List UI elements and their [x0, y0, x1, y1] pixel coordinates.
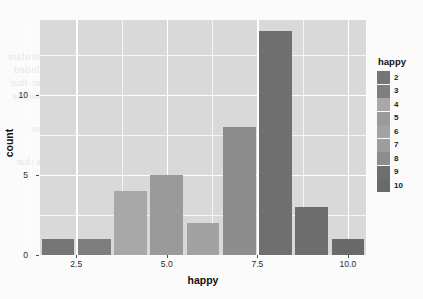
- legend-item-label: 9: [394, 168, 398, 176]
- bar: [332, 239, 365, 255]
- x-axis-tick-mark: [167, 255, 168, 258]
- legend-item-label: 8: [394, 155, 398, 163]
- bar: [223, 127, 256, 255]
- legend-item-label: 2: [394, 74, 398, 82]
- y-axis-title: count: [3, 113, 15, 173]
- legend-key-swatch: [377, 98, 390, 111]
- legend-title: happy: [378, 56, 406, 67]
- legend-items: 2345678910: [377, 71, 406, 193]
- legend-item: 8: [377, 152, 406, 166]
- bar: [295, 207, 328, 255]
- x-axis-title: happy: [40, 274, 366, 286]
- legend-item: 7: [377, 139, 406, 153]
- y-axis-tick-label: 10: [0, 90, 28, 100]
- legend-item-label: 7: [394, 141, 398, 149]
- legend-item: 9: [377, 166, 406, 180]
- bar: [150, 175, 183, 255]
- chart-screenshot: happyproduces a scale. the chart does no…: [0, 0, 423, 299]
- gridline-major-horizontal: [40, 255, 366, 256]
- legend-key-swatch: [377, 179, 390, 192]
- bar: [42, 239, 75, 255]
- legend-key-swatch: [377, 125, 390, 138]
- x-axis-tick-label: 2.5: [70, 259, 82, 269]
- legend: happy 2345678910: [377, 56, 406, 193]
- legend-item-label: 6: [394, 128, 398, 136]
- legend-key-swatch: [377, 112, 390, 125]
- x-axis-tick-label: 10.0: [340, 259, 357, 269]
- legend-key-swatch: [377, 166, 390, 179]
- x-axis-tick-mark: [257, 255, 258, 258]
- legend-item: 5: [377, 112, 406, 126]
- legend-key-swatch: [377, 152, 390, 165]
- y-axis-tick-mark: [36, 175, 39, 176]
- legend-item-label: 3: [394, 87, 398, 95]
- x-axis-tick-label: 7.5: [251, 259, 263, 269]
- legend-item-label: 5: [394, 114, 398, 122]
- legend-item: 4: [377, 98, 406, 112]
- legend-item-label: 4: [394, 101, 398, 109]
- y-axis-tick-mark: [36, 95, 39, 96]
- legend-key-swatch: [377, 71, 390, 84]
- bar: [114, 191, 147, 255]
- legend-item-label: 10: [394, 182, 403, 190]
- y-axis-tick-mark: [36, 255, 39, 256]
- x-axis-tick-mark: [76, 255, 77, 258]
- bar-series: [40, 20, 366, 255]
- x-axis-tick-label: 5.0: [161, 259, 173, 269]
- legend-key-swatch: [377, 85, 390, 98]
- gridline-minor-vertical: [31, 20, 32, 255]
- plot-panel: [40, 20, 366, 255]
- legend-key-swatch: [377, 139, 390, 152]
- y-axis-tick-label: 0: [0, 250, 28, 260]
- bar: [259, 31, 292, 255]
- legend-item: 6: [377, 125, 406, 139]
- legend-item: 2: [377, 71, 406, 85]
- x-axis-tick-mark: [348, 255, 349, 258]
- bar: [78, 239, 111, 255]
- legend-item: 3: [377, 85, 406, 99]
- legend-item: 10: [377, 179, 406, 193]
- bar: [187, 223, 220, 255]
